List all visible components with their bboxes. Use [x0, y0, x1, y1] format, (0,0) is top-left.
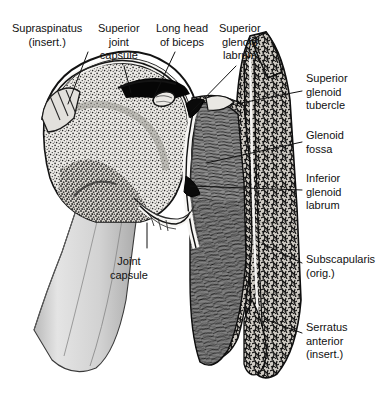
label-inferior-glenoid-labrum: Inferior glenoid labrum — [306, 172, 341, 213]
label-superior-joint-capsule: Superior joint capsule — [98, 22, 140, 63]
label-supraspinatus: Supraspinatus (insert.) — [12, 22, 82, 49]
label-serratus-anterior: Serratus anterior (insert.) — [306, 321, 348, 362]
shoulder-joint-figure: Supraspinatus (insert.)Superior joint ca… — [0, 0, 390, 407]
label-glenoid-fossa: Glenoid fossa — [306, 129, 344, 156]
label-subscapularis: Subscapularis (orig.) — [306, 253, 375, 280]
label-superior-glenoid-labrum: Superior glenoid labrum — [219, 22, 261, 63]
humeral-head — [42, 51, 198, 226]
label-joint-capsule: Joint capsule — [110, 255, 148, 282]
label-superior-glenoid-tubercle: Superior glenoid tubercle — [306, 72, 348, 113]
label-long-head-of-biceps: Long head of biceps — [156, 22, 208, 49]
